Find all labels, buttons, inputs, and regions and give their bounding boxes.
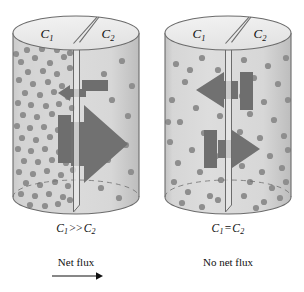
membrane-channel-block-upper (82, 80, 108, 91)
cylinder-top-ellipse (165, 16, 291, 50)
diffusion-diagram: C1 C2 C1>>C2 Net flux (0, 0, 304, 292)
membrane-divider (226, 36, 232, 212)
caption-rhs: C (84, 222, 92, 234)
caption-lhs: C (56, 222, 64, 234)
caption-rhs-sub: 2 (240, 227, 244, 236)
membrane-channel-block-lower (204, 130, 217, 168)
flux-label-left: Net flux (0, 256, 152, 268)
membrane-channel-block-lower (58, 115, 71, 163)
membrane-divider (74, 36, 80, 212)
net-flux-arrow-icon (0, 271, 152, 285)
cylinder-figure-right: C1 C2 (152, 0, 304, 218)
panel-high-gradient: C1 C2 C1>>C2 Net flux (0, 0, 152, 292)
caption-operator: >> (68, 222, 83, 234)
cylinder-top-ellipse (13, 16, 139, 50)
caption-concentration-left: C1>>C2 (0, 222, 152, 236)
cylinder-svg-left: C1 C2 (0, 0, 152, 218)
membrane-channel-block-upper (240, 72, 253, 110)
caption-rhs-sub: 2 (92, 227, 96, 236)
net-flux-arrow-container (0, 271, 152, 285)
caption-concentration-right: C1=C2 (152, 222, 304, 236)
cylinder-figure-left: C1 C2 (0, 0, 152, 218)
flux-label-right: No net flux (152, 256, 304, 268)
cylinder-svg-right: C1 C2 (152, 0, 304, 218)
panel-equal-concentration: C1 C2 C1=C2 No net flux (152, 0, 304, 292)
